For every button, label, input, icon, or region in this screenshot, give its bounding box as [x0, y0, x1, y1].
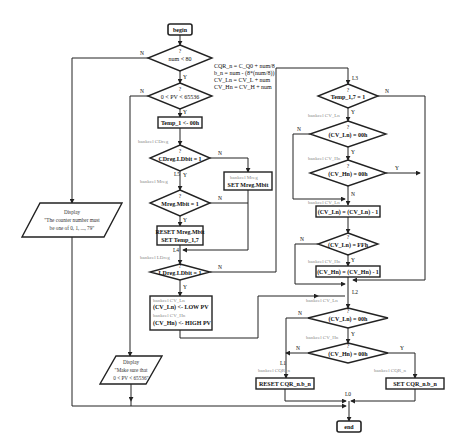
svg-text:N: N: [351, 191, 355, 197]
svg-text:(CV_Ln) <- LOW PV: (CV_Ln) <- LOW PV: [153, 304, 209, 311]
svg-text:N: N: [298, 310, 302, 316]
svg-text:0 < PV < 65536: 0 < PV < 65536: [161, 94, 199, 100]
svg-text:num < 80: num < 80: [168, 56, 191, 62]
decision-cdreg: ? CDreg.LDbit = 1: [150, 145, 210, 171]
svg-text:Mreg.Mbit = 1: Mreg.Mbit = 1: [161, 201, 198, 207]
svg-text:Y: Y: [400, 345, 404, 351]
svg-text:bankcel CQR_n: bankcel CQR_n: [258, 368, 291, 373]
process-dec-cvln: (CV_Ln) = (CV_Ln) - 1: [316, 206, 380, 217]
svg-text:Y: Y: [183, 217, 187, 223]
decision-temp: ? Temp_1,7 = 1: [318, 84, 378, 108]
begin-terminal: begin: [168, 24, 192, 35]
svg-text:(CV_Ln) = 00h: (CV_Ln) = 00h: [329, 132, 368, 139]
decision-cvln-zero-2: ? (CV_Ln) = 00h: [308, 308, 388, 328]
svg-text:N: N: [140, 50, 144, 56]
decision-cvln-zero: ? (CV_Ln) = 00h: [310, 121, 386, 147]
svg-text:N: N: [296, 345, 300, 351]
svg-text:bankcel CV_Hn: bankcel CV_Hn: [153, 313, 186, 318]
svg-text:bankcel CV_Ln: bankcel CV_Ln: [308, 113, 340, 118]
svg-text:"Make sure that: "Make sure that: [115, 367, 149, 373]
svg-text:CV_Ln = CV_L + num: CV_Ln = CV_L + num: [214, 77, 271, 83]
process-reset-cqr: RESET CQR_n.b_n: [256, 378, 314, 389]
svg-text:0 < PV < 65536": 0 < PV < 65536": [113, 375, 148, 381]
svg-text:"The counter number must: "The counter number must: [44, 217, 100, 223]
display-counter-number: Display "The counter number must be one …: [22, 203, 122, 237]
process-set-mreg: bankcel Mreg SET Mreg.Mbit: [224, 172, 272, 190]
svg-text:bankcel CV_Ln: bankcel CV_Ln: [153, 298, 185, 303]
svg-text:N: N: [297, 126, 301, 132]
svg-text:bankcel CV_Ln: bankcel CV_Ln: [308, 200, 340, 205]
svg-text:N: N: [218, 195, 222, 201]
decision-cvhn-zero-2: ? (CV_Hn) = 00h: [308, 343, 388, 363]
svg-text:Y: Y: [183, 172, 187, 178]
svg-text:b_n = num - (8*(num/8)): b_n = num - (8*(num/8)): [214, 70, 274, 77]
svg-text:Y: Y: [183, 74, 187, 80]
svg-text:LDreg.LDbit = 1: LDreg.LDbit = 1: [159, 270, 202, 276]
svg-text:bankcel CV_Hn: bankcel CV_Hn: [308, 156, 341, 161]
svg-text:begin: begin: [173, 27, 188, 33]
display-pv-range: Display "Make sure that 0 < PV < 65536": [100, 356, 162, 384]
svg-text:RESET Mreg.Mbit: RESET Mreg.Mbit: [155, 229, 204, 235]
svg-text:Display: Display: [123, 359, 140, 365]
process-reset-mreg: RESET Mreg.Mbit SET Temp_1,7: [155, 226, 204, 245]
svg-text:be one of 0, 1, ..., 79": be one of 0, 1, ..., 79": [50, 225, 95, 231]
svg-text:(CV_Hn) = (CV_Hn) - 1: (CV_Hn) = (CV_Hn) - 1: [317, 269, 379, 276]
svg-text:Y: Y: [183, 109, 187, 115]
svg-text:(CV_Hn) <- HIGH PV: (CV_Hn) <- HIGH PV: [153, 320, 212, 327]
svg-text:Y: Y: [351, 109, 355, 115]
svg-text:bankcel CV_Hn: bankcel CV_Hn: [308, 259, 341, 264]
svg-text:N: N: [218, 264, 222, 270]
svg-text:CDreg.LDbit = 1: CDreg.LDbit = 1: [158, 156, 201, 162]
svg-text:Y: Y: [395, 165, 399, 171]
svg-text:bankcel LDreg: bankcel LDreg: [140, 255, 170, 260]
svg-text:(CV_Ln) = 00h: (CV_Ln) = 00h: [329, 316, 368, 323]
end-terminal: end: [337, 421, 361, 432]
svg-text:Display: Display: [64, 209, 81, 215]
svg-text:SET Mreg.Mbit: SET Mreg.Mbit: [228, 182, 269, 188]
svg-text:L3: L3: [352, 75, 358, 81]
svg-text:bankcel CV_Hn: bankcel CV_Hn: [306, 335, 339, 340]
process-temp-clear: Temp_1 <- 00h: [158, 117, 202, 128]
svg-text:Y: Y: [183, 284, 187, 290]
process-set-cqr: SET CQR_n.b_n: [386, 378, 444, 389]
svg-text:(CV_Hn) = 00h: (CV_Hn) = 00h: [328, 171, 368, 178]
decision-pv-range: ? 0 < PV < 65536: [148, 83, 212, 109]
decision-mreg: ? Mreg.Mbit = 1: [150, 190, 210, 216]
svg-text:Y: Y: [351, 331, 355, 337]
note-block: CQR_n = C_Q0 + num/8 b_n = num - (8*(num…: [214, 63, 275, 90]
svg-text:N: N: [140, 88, 144, 94]
svg-text:bankcel CQR_n: bankcel CQR_n: [374, 368, 407, 373]
svg-text:L4: L4: [173, 247, 179, 253]
decision-cvln-ff: ? (CV_Ln) = FFh: [318, 233, 378, 255]
svg-text:end: end: [344, 424, 354, 430]
svg-text:Y: Y: [351, 149, 355, 155]
decision-num: ? num < 80: [148, 45, 212, 71]
svg-text:CQR_n = C_Q0 + num/8: CQR_n = C_Q0 + num/8: [214, 63, 275, 69]
svg-text:N: N: [385, 88, 389, 94]
svg-text:CV_Hn = CV_H + num: CV_Hn = CV_H + num: [214, 84, 272, 90]
decision-cvhn-zero: ? (CV_Hn) = 00h: [310, 160, 386, 186]
process-load-pv: bankcel CV_Ln (CV_Ln) <- LOW PV bankcel …: [150, 296, 212, 330]
svg-text:N: N: [300, 236, 304, 242]
svg-text:L5: L5: [174, 171, 180, 177]
flowchart: begin ? num < 80 N Y CQR_n = C_Q0 + num/…: [0, 0, 463, 446]
svg-text:(CV_Ln) = FFh: (CV_Ln) = FFh: [328, 242, 369, 249]
svg-text:L2: L2: [352, 289, 358, 295]
svg-text:Temp_1,7 = 1: Temp_1,7 = 1: [331, 94, 365, 100]
svg-text:SET Temp_1,7: SET Temp_1,7: [161, 237, 199, 243]
svg-text:L0: L0: [345, 391, 351, 397]
svg-text:L1: L1: [280, 360, 286, 366]
svg-text:bankcel Mreg: bankcel Mreg: [140, 179, 168, 184]
process-dec-cvhn: (CV_Hn) = (CV_Hn) - 1: [316, 266, 380, 277]
svg-text:Y: Y: [351, 257, 355, 263]
decision-ldreg: ? LDreg.LDbit = 1: [150, 263, 210, 280]
svg-text:RESET CQR_n.b_n: RESET CQR_n.b_n: [259, 381, 312, 387]
svg-text:N: N: [218, 150, 222, 156]
svg-text:Temp_1 <- 00h: Temp_1 <- 00h: [161, 120, 200, 126]
svg-text:bankcel CV_Ln: bankcel CV_Ln: [306, 298, 338, 303]
svg-text:bankcel Mreg: bankcel Mreg: [230, 175, 258, 180]
svg-text:(CV_Hn) = 00h: (CV_Hn) = 00h: [328, 351, 368, 358]
svg-text:SET CQR_n.b_n: SET CQR_n.b_n: [393, 381, 437, 387]
svg-text:(CV_Ln) = (CV_Ln) - 1: (CV_Ln) = (CV_Ln) - 1: [318, 209, 378, 216]
svg-text:bankcel CDreg: bankcel CDreg: [138, 139, 169, 144]
